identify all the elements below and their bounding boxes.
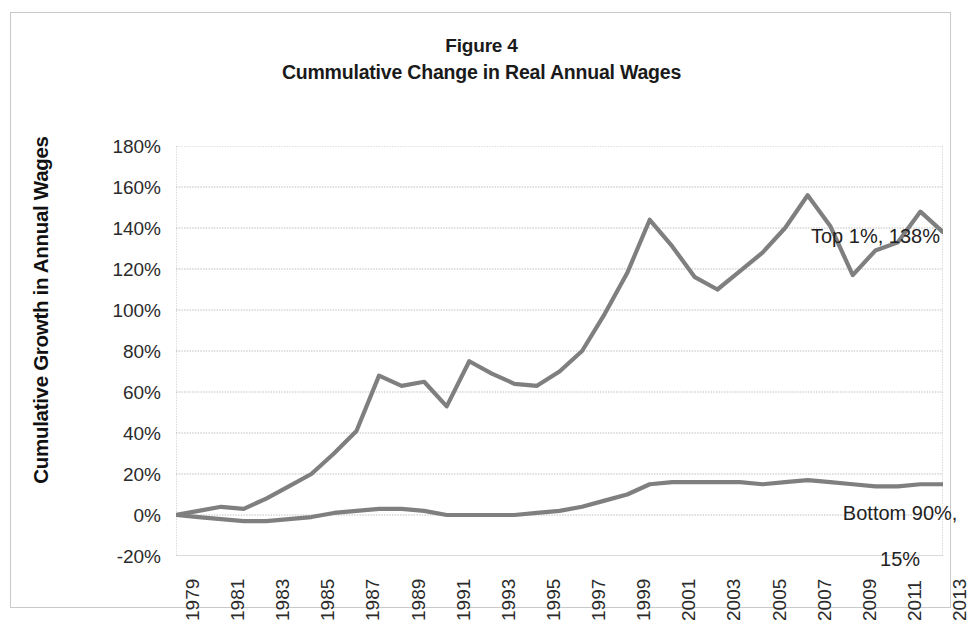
x-tick-label: 2005 [770, 579, 789, 621]
x-tick-label: 1999 [634, 579, 653, 621]
x-tick-label: 1995 [544, 579, 563, 621]
y-tick-label: 120% [69, 260, 161, 279]
series-annotation-bottom90: Bottom 90%, 15% [819, 479, 959, 594]
y-axis-title: Cumulative Growth in Annual Wages [29, 30, 53, 590]
x-tick-label: 1989 [409, 579, 428, 621]
series-annotation-bottom90-line2: 15% [880, 548, 920, 570]
series-annotation-top1: Top 1%, 138% [811, 225, 940, 248]
x-tick-label: 1985 [318, 579, 337, 621]
chart-title: Figure 4 Cummulative Change in Real Annu… [11, 33, 952, 85]
x-tick-label: 1987 [363, 579, 382, 621]
x-tick-label: 2001 [679, 579, 698, 621]
chart-title-line-1: Figure 4 [11, 33, 952, 59]
y-tick-label: -20% [69, 547, 161, 566]
y-tick-label: 0% [69, 506, 161, 525]
y-tick-label: 40% [69, 424, 161, 443]
x-tick-label: 1991 [454, 579, 473, 621]
y-tick-label: 160% [69, 178, 161, 197]
x-tick-label: 1979 [183, 579, 202, 621]
series-annotation-bottom90-line1: Bottom 90%, [843, 502, 958, 524]
y-tick-label: 180% [69, 137, 161, 156]
y-tick-label: 20% [69, 465, 161, 484]
x-tick-label: 1997 [589, 579, 608, 621]
x-tick-label: 1993 [499, 579, 518, 621]
chart-title-line-2: Cummulative Change in Real Annual Wages [11, 59, 952, 85]
figure-frame: Figure 4 Cummulative Change in Real Annu… [10, 12, 951, 608]
y-tick-label: 100% [69, 301, 161, 320]
y-tick-label: 80% [69, 342, 161, 361]
y-tick-label: 140% [69, 219, 161, 238]
x-tick-label: 2003 [724, 579, 743, 621]
y-tick-label: 60% [69, 383, 161, 402]
x-tick-label: 1981 [228, 579, 247, 621]
x-tick-label: 1983 [273, 579, 292, 621]
